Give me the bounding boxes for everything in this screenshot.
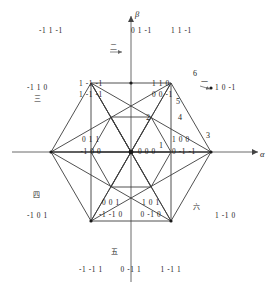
sector-number-5: 5 bbox=[176, 98, 180, 106]
switching-state-label: 1 0 1 bbox=[142, 199, 160, 206]
sector-numeral-label: 六 bbox=[193, 204, 200, 211]
pointer-arrow-one bbox=[200, 86, 210, 89]
switching-state-label: 1 -1 -1 bbox=[79, 80, 103, 87]
vertex-dot-bl bbox=[89, 219, 92, 222]
sector-number-2: 2 bbox=[146, 114, 150, 122]
switching-state-label: 0 -1 0 bbox=[141, 211, 162, 218]
vertex-dot-br bbox=[169, 219, 172, 222]
switching-state-label: -1 1 -1 bbox=[39, 27, 63, 34]
sector-numeral-label: 一 bbox=[201, 79, 208, 86]
switching-state-label: -1 0 0 bbox=[81, 148, 102, 155]
vertex-dot-left bbox=[49, 150, 52, 153]
sector-number-1: 1 bbox=[159, 142, 163, 150]
switching-state-label: 1 -1 1 bbox=[161, 266, 182, 273]
switching-state-label: -1 -1 1 bbox=[79, 266, 103, 273]
switching-state-label: 1 0 0 bbox=[172, 136, 190, 143]
switching-state-label: 1 1 0 bbox=[152, 80, 170, 87]
sector-number-6: 6 bbox=[193, 70, 197, 78]
switching-state-label: -1 1 0 bbox=[27, 84, 48, 91]
switching-state-label: 0 0 -1 bbox=[152, 91, 173, 98]
switching-state-label: 0 0 0 bbox=[138, 148, 156, 155]
sector-numeral-label: 三 bbox=[34, 96, 41, 103]
switching-state-label: 1 -1 -1 bbox=[79, 91, 103, 98]
axis-label-alpha: α bbox=[260, 150, 264, 159]
switching-state-label: 1 -1 0 bbox=[215, 212, 236, 219]
switching-state-label: -1 0 1 bbox=[27, 212, 48, 219]
switching-state-label: 0 -1 -1 bbox=[172, 148, 196, 155]
hexagon-vector-diagram bbox=[0, 0, 275, 286]
sector-numeral-label: 四 bbox=[33, 192, 40, 199]
axes-group bbox=[12, 16, 258, 282]
axis-label-beta: β bbox=[135, 10, 139, 19]
origin-dot bbox=[129, 150, 134, 155]
switching-state-label: 1 0 -1 bbox=[215, 84, 236, 91]
switching-state-label: 0 0 1 bbox=[102, 199, 120, 206]
sector-numeral-label: 二 bbox=[110, 44, 117, 51]
switching-state-label: 1 1 -1 bbox=[171, 27, 192, 34]
switching-state-label: 0 -1 1 bbox=[121, 266, 142, 273]
switching-state-label: -1 -1 0 bbox=[99, 211, 123, 218]
vertex-dot-top bbox=[129, 81, 132, 84]
sector-numeral-label: 五 bbox=[111, 249, 118, 256]
vertex-dot-right bbox=[209, 150, 212, 153]
figure-canvas: -1 1 -10 1 -11 1 -11 -1 -11 -1 -11 1 00 … bbox=[0, 0, 275, 286]
switching-state-label: 0 1 1 bbox=[82, 136, 100, 143]
sector-number-3: 3 bbox=[206, 132, 210, 140]
switching-state-label: 0 1 -1 bbox=[131, 27, 152, 34]
sector-number-4: 4 bbox=[178, 114, 182, 122]
